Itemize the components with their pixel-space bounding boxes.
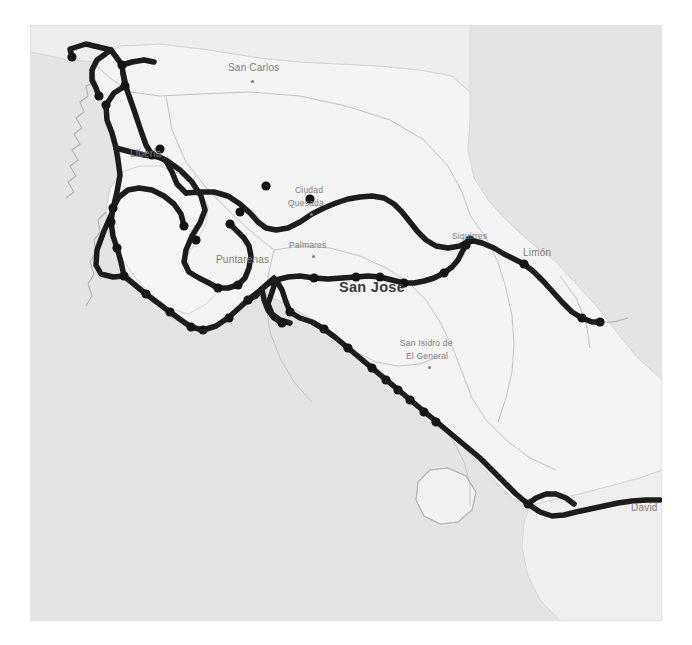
node-central-1[interactable]: [309, 273, 318, 282]
node-caribe-2[interactable]: [595, 317, 604, 326]
node-ne-1[interactable]: [261, 181, 270, 190]
node-pac-9[interactable]: [419, 407, 428, 416]
map-svg: [0, 0, 692, 645]
node-pen-5[interactable]: [141, 289, 150, 298]
node-punt-3[interactable]: [233, 280, 242, 289]
node-pac-7[interactable]: [393, 385, 402, 394]
node-pen-6[interactable]: [165, 307, 174, 316]
node-pac-3[interactable]: [319, 324, 328, 333]
node-nw-5[interactable]: [101, 100, 110, 109]
node-pen-1[interactable]: [108, 203, 117, 212]
node-david[interactable]: [523, 499, 532, 508]
node-ne-2[interactable]: [305, 194, 314, 203]
node-punt-1[interactable]: [213, 283, 222, 292]
node-punt-4[interactable]: [235, 207, 244, 216]
node-liberia-b[interactable]: [155, 144, 164, 153]
city-dot-ciudad-quesada-line2: [310, 213, 313, 216]
node-punt-6[interactable]: [224, 313, 233, 322]
node-pac-2[interactable]: [277, 318, 286, 327]
node-pen-3[interactable]: [112, 243, 121, 252]
node-pen-8[interactable]: [198, 325, 207, 334]
map-canvas[interactable]: San CarlosLiberiaCiudadQuesadaPalmaresPu…: [0, 0, 692, 645]
node-central-2[interactable]: [351, 272, 360, 281]
node-nw-1[interactable]: [67, 52, 76, 61]
node-pen-9[interactable]: [179, 221, 188, 230]
node-pac-1[interactable]: [285, 307, 294, 316]
node-caribe-1[interactable]: [577, 313, 586, 322]
node-pac-6[interactable]: [381, 375, 390, 384]
node-pen-7[interactable]: [186, 322, 195, 331]
node-punt-2[interactable]: [225, 219, 234, 228]
node-central-3[interactable]: [375, 272, 384, 281]
node-central-4[interactable]: [399, 278, 408, 287]
city-dot-san-carlos: [251, 80, 254, 83]
city-dot-san-isidro-line2: [428, 366, 431, 369]
city-dot-palmares: [312, 255, 315, 258]
node-pac-10[interactable]: [431, 417, 440, 426]
node-nw-4[interactable]: [120, 81, 129, 90]
node-central-5[interactable]: [439, 268, 448, 277]
node-limon[interactable]: [519, 259, 528, 268]
node-liberia-a[interactable]: [147, 150, 156, 159]
node-nw-2[interactable]: [94, 91, 103, 100]
node-punt-5[interactable]: [243, 295, 252, 304]
node-pac-8[interactable]: [405, 395, 414, 404]
node-nw-3[interactable]: [117, 60, 126, 69]
node-pac-5[interactable]: [367, 363, 376, 372]
node-pen-10[interactable]: [191, 235, 200, 244]
node-pen-4[interactable]: [119, 271, 128, 280]
node-pac-4[interactable]: [343, 343, 352, 352]
node-pen-2[interactable]: [106, 217, 115, 226]
node-siquirres[interactable]: [465, 235, 474, 244]
